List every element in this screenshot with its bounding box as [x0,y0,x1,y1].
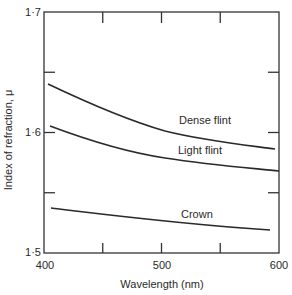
y-tick-label-1.5: 1·5 [25,246,41,258]
y-tick-label-1.6: 1·6 [25,126,41,138]
y-tick-label-1.7: 1·7 [25,6,41,18]
refraction-chart: Dense flint Light flint Crown 1·7 1·6 1·… [0,0,292,295]
light-flint-label: Light flint [178,144,222,156]
plot-frame [44,12,279,253]
y-axis-title: Index of refraction, μ [2,90,14,191]
x-tick-label-600: 600 [270,259,288,271]
crown-label: Crown [181,208,213,220]
x-tick-label-400: 400 [36,259,54,271]
x-tick-label-500: 500 [153,259,171,271]
light-flint-curve [50,126,279,171]
x-axis-title: Wavelength (nm) [120,278,203,290]
dense-flint-curve [48,84,275,149]
dense-flint-label: Dense flint [179,114,231,126]
crown-curve [51,208,270,230]
